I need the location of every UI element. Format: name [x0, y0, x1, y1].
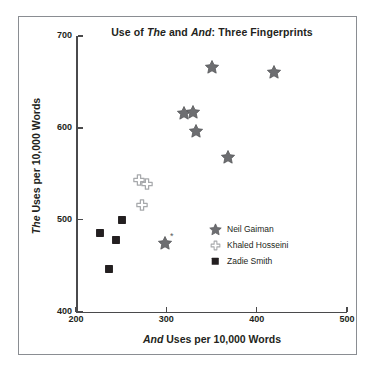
plot-area: Use of The and And: Three Fingerprints T…	[0, 0, 373, 375]
y-tick	[78, 311, 83, 313]
y-tick-label: 500	[38, 214, 72, 224]
legend-item[interactable]: Khaled Hosseini	[207, 237, 288, 253]
x-tick-label: 300	[146, 314, 186, 324]
y-tick	[78, 127, 83, 129]
data-point-khaled-hosseini	[135, 198, 148, 211]
data-point-neil-gaiman	[189, 123, 204, 138]
y-tick-label: 700	[38, 30, 72, 40]
legend-item[interactable]: Neil Gaiman	[207, 221, 288, 237]
x-axis-line	[76, 312, 347, 314]
x-tick-label: 200	[56, 314, 96, 324]
x-tick	[346, 307, 348, 312]
legend-marker-square-filled-icon	[207, 254, 224, 269]
legend-label: Zadie Smith	[227, 256, 272, 266]
x-tick-label: 400	[237, 314, 277, 324]
data-point-zadie-smith	[96, 229, 106, 239]
data-point-neil-gaiman	[266, 64, 281, 79]
x-tick	[75, 307, 77, 312]
y-axis-line	[76, 36, 78, 313]
y-axis-label: The Uses per 10,000 Words	[30, 66, 42, 266]
legend-item[interactable]: Zadie Smith	[207, 253, 288, 269]
legend-label: Khaled Hosseini	[227, 240, 288, 250]
chart-figure: Use of The and And: Three Fingerprints T…	[0, 0, 373, 375]
x-tick	[256, 307, 258, 312]
y-tick	[78, 35, 83, 37]
x-tick	[166, 307, 168, 312]
legend-marker-cross-outline-icon	[207, 238, 224, 253]
y-tick	[78, 219, 83, 221]
data-point-zadie-smith	[111, 235, 121, 245]
chart-legend: Neil GaimanKhaled HosseiniZadie Smith	[207, 221, 288, 269]
data-point-neil-gaiman	[220, 150, 235, 165]
point-annotation: *	[170, 231, 174, 241]
y-tick-label: 600	[38, 122, 72, 132]
chart-title: Use of The and And: Three Fingerprints	[78, 26, 346, 38]
x-tick-label: 500	[327, 314, 367, 324]
data-point-zadie-smith	[117, 215, 127, 225]
data-point-neil-gaiman	[205, 60, 220, 75]
data-point-zadie-smith	[104, 265, 114, 275]
data-point-khaled-hosseini	[141, 177, 154, 190]
legend-label: Neil Gaiman	[227, 224, 274, 234]
data-point-neil-gaiman	[185, 105, 200, 120]
legend-marker-star-icon	[207, 222, 224, 237]
x-axis-label: And Uses per 10,000 Words	[76, 333, 348, 345]
